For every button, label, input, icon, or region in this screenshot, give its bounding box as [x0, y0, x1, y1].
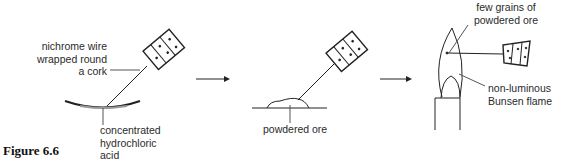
- inner-cone: [441, 76, 460, 98]
- label-few-grains: few grains of powdered ore: [470, 1, 542, 26]
- label-bunsen-flame: non-luminous Bunsen flame: [488, 82, 552, 107]
- ore-pile: [267, 98, 309, 108]
- label-acid: concentrated hydrochloric acid: [100, 124, 161, 162]
- figure-caption: Figure 6.6: [3, 143, 59, 159]
- cork-icon-3: [503, 41, 530, 66]
- nichrome-wire: [107, 66, 147, 106]
- label-nichrome-wire: nichrome wire wrapped round a cork: [35, 40, 107, 78]
- nichrome-wire-2: [298, 63, 335, 100]
- nichrome-wire-3: [447, 53, 503, 54]
- watch-glass: [65, 101, 140, 108]
- cork-icon: [143, 29, 184, 69]
- label-powdered-ore: powdered ore: [263, 123, 327, 136]
